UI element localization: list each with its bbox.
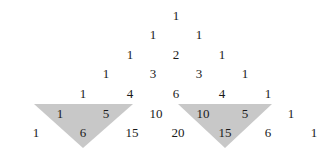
row-6-entry-2: 15 (126, 126, 139, 139)
row-5-entry-4: 5 (242, 107, 249, 120)
row-3-entry-2: 3 (196, 67, 203, 80)
row-6-entry-5: 6 (265, 126, 272, 139)
row-6-entry-0: 1 (33, 126, 40, 139)
row-5-entry-5: 1 (288, 107, 295, 120)
row-4-entry-2: 6 (173, 87, 180, 100)
row-6-entry-1: 6 (80, 126, 87, 139)
row-5-entry-1: 5 (103, 107, 110, 120)
row-6-entry-3: 20 (172, 126, 185, 139)
row-0-entry-0: 1 (173, 9, 180, 22)
row-2-entry-2: 1 (219, 48, 226, 61)
row-4-entry-0: 1 (80, 87, 87, 100)
row-3-entry-1: 3 (150, 67, 157, 80)
pascals-triangle-diagram: 1 1 1 1 2 1 1 3 3 1 1 4 6 4 1 1 5 10 10 … (0, 0, 326, 151)
row-3-entry-0: 1 (103, 67, 110, 80)
row-6-entry-4: 15 (219, 126, 232, 139)
row-5-entry-3: 10 (197, 107, 210, 120)
row-5-entry-2: 10 (150, 107, 163, 120)
row-2-entry-1: 2 (173, 48, 180, 61)
highlight-layer (0, 0, 326, 151)
row-1-entry-0: 1 (150, 28, 157, 41)
row-4-entry-3: 4 (219, 87, 226, 100)
row-4-entry-4: 1 (265, 87, 272, 100)
row-4-entry-1: 4 (127, 87, 134, 100)
row-1-entry-1: 1 (196, 28, 203, 41)
row-2-entry-0: 1 (127, 48, 134, 61)
row-5-entry-0: 1 (57, 107, 64, 120)
row-6-entry-6: 1 (311, 126, 318, 139)
row-3-entry-3: 1 (242, 67, 249, 80)
